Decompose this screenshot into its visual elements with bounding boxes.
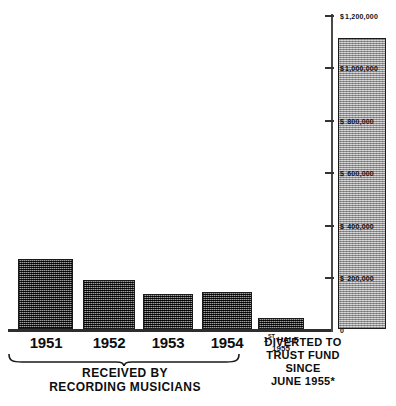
- group-brace: [8, 352, 240, 364]
- diverted-caption-line1: DIVERTED TO: [238, 336, 368, 349]
- brace-icon: [8, 354, 240, 366]
- bar-1954: [202, 292, 252, 329]
- currency-symbol: $: [340, 275, 344, 282]
- diverted-caption: DIVERTED TO TRUST FUND SINCE JUNE 1955*: [238, 336, 368, 388]
- currency-symbol: $: [340, 65, 344, 72]
- group-caption-line1: RECEIVED BY: [0, 366, 250, 380]
- y-tick-1200000: [325, 15, 334, 17]
- bar-diverted-trust-fund: [338, 38, 386, 329]
- x-axis-baseline: [8, 329, 332, 332]
- y-tick-label-600000: $ 600,000: [340, 170, 374, 177]
- currency-symbol: $: [340, 170, 344, 177]
- y-tick-400000: [325, 225, 334, 227]
- y-tick-label-800000: $ 800,000: [340, 118, 374, 125]
- y-tick-600000: [325, 172, 334, 174]
- y-tick-label-200000: $ 200,000: [340, 275, 374, 282]
- category-label-1951: 1951: [12, 334, 80, 351]
- y-tick-label-400000: $ 400,000: [340, 223, 374, 230]
- group-caption: RECEIVED BY RECORDING MUSICIANS: [0, 366, 250, 394]
- diverted-caption-line3: SINCE: [238, 362, 368, 375]
- group-caption-line2: RECORDING MUSICIANS: [0, 380, 250, 394]
- diverted-caption-line2: TRUST FUND: [238, 349, 368, 362]
- currency-symbol: $: [340, 13, 344, 20]
- category-label-1952: 1952: [75, 334, 143, 351]
- diverted-caption-line4: JUNE 1955*: [238, 375, 368, 388]
- bar-1st-half-1955: [258, 318, 304, 329]
- currency-symbol: $: [340, 223, 344, 230]
- bar-1952: [83, 280, 135, 329]
- currency-symbol: $: [340, 118, 344, 125]
- y-tick-800000: [325, 120, 334, 122]
- y-tick-label-1000000: $1,000,000: [340, 65, 378, 72]
- bar-chart: $1,200,000 $1,000,000 $ 800,000 $ 600,00…: [0, 0, 396, 406]
- category-label-1953: 1953: [134, 334, 202, 351]
- plot-area: $1,200,000 $1,000,000 $ 800,000 $ 600,00…: [0, 0, 396, 406]
- bar-1951: [18, 259, 73, 329]
- bar-1953: [143, 294, 193, 329]
- y-tick-label-0: 0: [340, 327, 344, 334]
- y-tick-200000: [325, 277, 334, 279]
- y-tick-label-1200000: $1,200,000: [340, 13, 378, 20]
- y-tick-1000000: [325, 67, 334, 69]
